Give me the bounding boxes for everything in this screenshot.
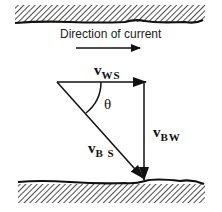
vector-bw-label: vBW bbox=[153, 123, 181, 141]
river-vector-diagram: Direction of current vWS θ vBW vB S bbox=[0, 0, 222, 212]
top-bank bbox=[15, 5, 205, 23]
angle-theta-label: θ bbox=[104, 96, 111, 113]
current-direction-label: Direction of current bbox=[60, 27, 161, 41]
vector-ws-label: vWS bbox=[94, 61, 121, 79]
theta-arc bbox=[86, 82, 101, 113]
bottom-bank bbox=[18, 180, 205, 204]
vector-bs-arrow bbox=[57, 82, 143, 178]
vector-bs-label: vB S bbox=[88, 139, 115, 157]
